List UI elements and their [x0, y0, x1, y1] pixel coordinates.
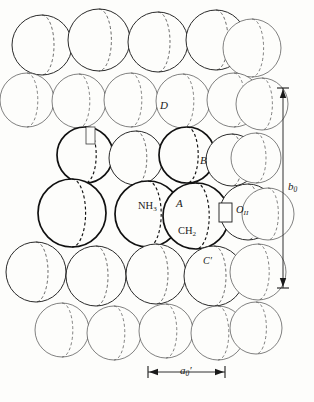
sphere-outline [52, 74, 106, 128]
sphere-outline [0, 73, 54, 127]
sphere-outline [57, 127, 113, 183]
bond-neck-oxygen [219, 203, 232, 222]
sphere-outline [139, 304, 193, 358]
packing-sphere [0, 73, 54, 127]
sphere-outline [230, 244, 286, 300]
packing-sphere [230, 302, 282, 354]
packing-sphere [231, 133, 281, 183]
sphere-outline [126, 244, 186, 304]
sphere-outline [66, 246, 126, 306]
spheres-layer [0, 9, 294, 360]
b0-subscript: 0 [294, 185, 298, 194]
packing-sphere [12, 15, 72, 75]
label-site-c-prime: C′ [203, 256, 212, 266]
packing-sphere [230, 244, 286, 300]
oxygen-subscript: II [244, 209, 249, 217]
methylene-text: CH [178, 225, 193, 236]
packing-sphere [57, 127, 113, 183]
packing-sphere [242, 188, 294, 240]
packing-sphere [52, 74, 106, 128]
sphere-outline [231, 133, 281, 183]
packing-model-figure: D B A C′ NH3 CH2 OII b0 a0′ [0, 0, 314, 402]
sphere-outline [109, 131, 163, 185]
ammonia-subscript: 3 [153, 205, 157, 213]
a0-prime-mark: ′ [189, 364, 191, 376]
packing-sphere [139, 304, 193, 358]
packing-sphere [38, 179, 106, 247]
sphere-outline [38, 179, 106, 247]
label-site-d: D [160, 100, 168, 111]
label-site-b: B [200, 155, 207, 166]
sphere-outline [230, 302, 282, 354]
packing-sphere [126, 244, 186, 304]
packing-sphere [104, 73, 158, 127]
crystal-packing-diagram [0, 0, 314, 402]
label-group-ammonia: NH3 [138, 201, 157, 213]
packing-sphere [236, 78, 288, 130]
dimension-label-a0-prime: a0′ [180, 365, 192, 378]
sphere-outline [35, 303, 89, 357]
arrowhead-left [149, 369, 158, 375]
label-site-a: A [176, 198, 183, 209]
packing-sphere [68, 9, 130, 71]
sphere-outline [6, 242, 66, 302]
packing-sphere [128, 12, 188, 72]
sphere-outline [236, 78, 288, 130]
oxygen-text: O [236, 204, 244, 215]
sphere-outline [128, 12, 188, 72]
ammonia-text: NH [138, 200, 153, 211]
packing-sphere [35, 303, 89, 357]
bond-neck-upper-left [86, 127, 95, 144]
label-atom-oxygen: OII [236, 205, 248, 217]
sphere-outline [87, 306, 141, 360]
sphere-outline [12, 15, 72, 75]
dimension-label-b0: b0 [288, 181, 297, 194]
label-group-methylene: CH2 [178, 226, 196, 238]
packing-sphere [6, 242, 66, 302]
methylene-subscript: 2 [193, 230, 197, 238]
sphere-outline [223, 19, 281, 77]
packing-sphere [66, 246, 126, 306]
arrowhead-right [215, 369, 224, 375]
packing-sphere [223, 19, 281, 77]
sphere-outline [104, 73, 158, 127]
sphere-outline [68, 9, 130, 71]
sphere-outline [242, 188, 294, 240]
packing-sphere [87, 306, 141, 360]
packing-sphere [109, 131, 163, 185]
